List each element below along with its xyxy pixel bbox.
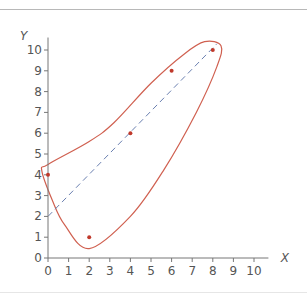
data-point (46, 173, 50, 177)
x-tick-label: 0 (44, 264, 52, 278)
y-tick-label: 0 (34, 251, 42, 265)
x-tick-label: 8 (209, 264, 217, 278)
y-tick-label: 2 (34, 209, 42, 223)
y-tick-label: 6 (34, 126, 42, 140)
x-tick-label: 1 (65, 264, 73, 278)
x-tick-label: 4 (127, 264, 135, 278)
scatter-chart: 012345678910012345678910XY (0, 0, 307, 294)
data-point (128, 131, 132, 135)
x-tick-label: 5 (147, 264, 155, 278)
y-axis-label: Y (20, 29, 29, 43)
y-tick-label: 10 (27, 43, 42, 57)
data-point (211, 48, 215, 52)
data-point (87, 235, 91, 239)
y-tick-label: 1 (34, 230, 42, 244)
y-tick-label: 3 (34, 189, 42, 203)
y-tick-label: 4 (34, 168, 42, 182)
y-tick-label: 9 (34, 64, 42, 78)
data-point (170, 69, 174, 73)
y-tick-label: 8 (34, 85, 42, 99)
x-tick-label: 9 (230, 264, 238, 278)
x-tick-label: 6 (168, 264, 176, 278)
x-tick-label: 10 (246, 264, 261, 278)
regression-line (48, 44, 217, 217)
x-tick-label: 7 (188, 264, 196, 278)
x-axis-label: X (280, 251, 290, 265)
enclosing-outline (41, 41, 221, 249)
y-tick-label: 5 (34, 147, 42, 161)
x-tick-label: 3 (106, 264, 114, 278)
x-tick-label: 2 (85, 264, 93, 278)
y-tick-label: 7 (34, 105, 42, 119)
